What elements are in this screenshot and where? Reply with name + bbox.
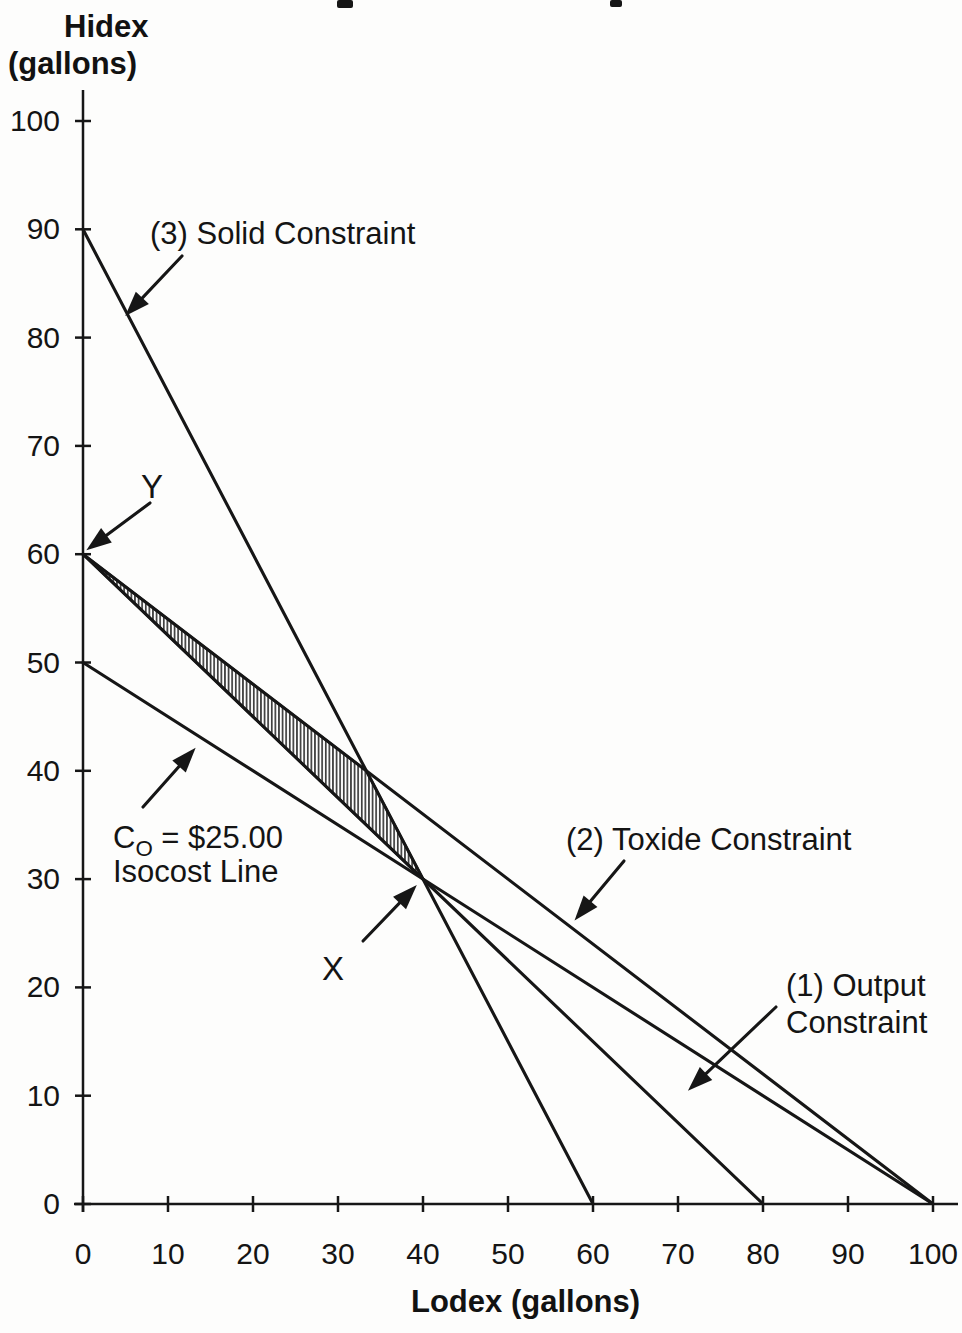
x-tick-label-100: 100 bbox=[908, 1237, 958, 1270]
x-tick-label-70: 70 bbox=[661, 1237, 694, 1270]
line-series-0--3-solid-constraint bbox=[83, 229, 593, 1204]
point-y-label-text-line-1: Y bbox=[141, 468, 163, 505]
solid-constraint-label-text-line-1: (3) Solid Constraint bbox=[150, 216, 416, 251]
tick-labels: 0102030405060708090100010203040506070809… bbox=[10, 104, 958, 1270]
y-tick-label-100: 100 bbox=[10, 104, 60, 137]
x-tick-label-30: 30 bbox=[321, 1237, 354, 1270]
x-tick-label-60: 60 bbox=[576, 1237, 609, 1270]
y-tick-label-70: 70 bbox=[27, 429, 60, 462]
lp-feasible-region-chart: 0102030405060708090100010203040506070809… bbox=[0, 0, 962, 1333]
y-tick-label-80: 80 bbox=[27, 321, 60, 354]
x-tick-label-90: 90 bbox=[831, 1237, 864, 1270]
point-y-label: Y bbox=[86, 468, 163, 550]
x-tick-label-20: 20 bbox=[236, 1237, 269, 1270]
arrow-head bbox=[86, 528, 111, 550]
arrow-shaft bbox=[698, 1007, 776, 1081]
point-x-label-text-line-1: X bbox=[322, 950, 344, 987]
line-series-3-c-o-25-00-isocost-line bbox=[83, 663, 933, 1205]
toxide-constraint-label-text-line-1: (2) Toxide Constraint bbox=[566, 822, 852, 857]
y-tick-label-10: 10 bbox=[27, 1079, 60, 1112]
y-tick-label-50: 50 bbox=[27, 646, 60, 679]
constraint-lines bbox=[83, 229, 933, 1204]
y-tick-label-0: 0 bbox=[43, 1187, 60, 1220]
y-tick-label-30: 30 bbox=[27, 862, 60, 895]
x-tick-label-50: 50 bbox=[491, 1237, 524, 1270]
point-x-label: X bbox=[322, 885, 417, 987]
cropped-title-fragments bbox=[337, 0, 622, 8]
title-fragment-mark bbox=[610, 0, 622, 7]
y-tick-label-40: 40 bbox=[27, 754, 60, 787]
output-constraint-label-text-line-1: (1) Output bbox=[786, 968, 926, 1003]
isocost-label-text-line-2: Isocost Line bbox=[113, 854, 278, 889]
x-axis-title: Lodex (gallons) bbox=[411, 1284, 640, 1320]
x-tick-label-80: 80 bbox=[746, 1237, 779, 1270]
y-tick-label-90: 90 bbox=[27, 212, 60, 245]
output-constraint-label-text-line-2: Constraint bbox=[786, 1005, 928, 1040]
y-tick-label-20: 20 bbox=[27, 970, 60, 1003]
y-tick-label-60: 60 bbox=[27, 537, 60, 570]
scanned-chart-page: Hidex (gallons) 010203040506070809010001… bbox=[0, 0, 962, 1333]
title-fragment-mark bbox=[337, 0, 353, 8]
x-tick-label-40: 40 bbox=[406, 1237, 439, 1270]
isocost-label: CO = $25.00Isocost Line bbox=[113, 748, 283, 889]
x-tick-label-10: 10 bbox=[151, 1237, 184, 1270]
solid-constraint-label: (3) Solid Constraint bbox=[125, 216, 416, 316]
toxide-constraint-label: (2) Toxide Constraint bbox=[566, 822, 852, 920]
x-tick-label-0: 0 bbox=[75, 1237, 92, 1270]
